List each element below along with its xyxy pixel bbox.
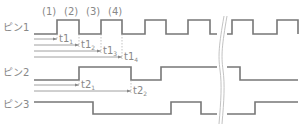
edge-label-3: (3)	[86, 6, 100, 17]
pin3-waveform	[34, 102, 298, 114]
pin3-label: ピン3	[3, 99, 29, 110]
pin1-label: ピン1	[3, 22, 29, 33]
t1-1-label: t11	[59, 33, 73, 45]
edge-label-1: (1)	[42, 6, 56, 17]
edge-label-4: (4)	[108, 6, 122, 17]
t2-1-label: t21	[81, 79, 95, 91]
t1-4-label: t14	[124, 51, 138, 63]
pin2-waveform	[34, 67, 298, 80]
pin1-waveform	[34, 20, 298, 34]
timing-diagram: (1) (2) (3) (4) ピン1 ピン2 ピン3 t11 t12 t13 …	[0, 0, 305, 131]
t2-2-label: t22	[133, 85, 147, 97]
t1-2-label: t12	[81, 39, 95, 51]
edge-label-2: (2)	[64, 6, 78, 17]
t1-3-label: t13	[103, 45, 117, 57]
pin2-label: ピン2	[3, 67, 29, 78]
break-mask	[217, 16, 227, 124]
